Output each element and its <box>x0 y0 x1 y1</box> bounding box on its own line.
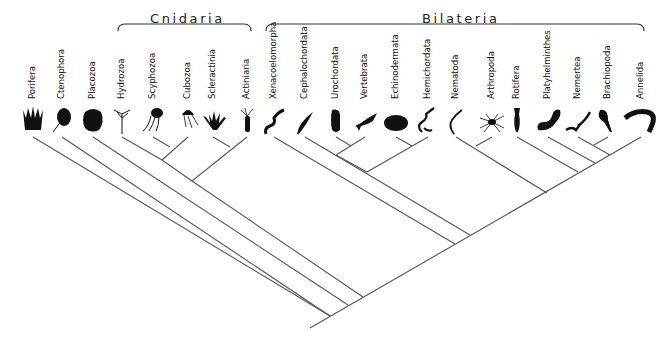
coral-icon <box>203 111 226 130</box>
fish-icon <box>355 113 377 131</box>
taxon-label-cubozoa: Cubozoa <box>181 62 192 99</box>
lamp-shell-icon <box>599 110 612 132</box>
tree-branch <box>62 137 330 316</box>
tree-branch <box>33 137 330 316</box>
taxon-label-arthropoda: Arthropoda <box>485 51 496 99</box>
comb-jelly-icon <box>53 108 71 132</box>
rotifer-icon <box>514 108 520 132</box>
tree-branch <box>367 137 428 172</box>
segmented-worm-icon <box>625 112 653 132</box>
tree-branch <box>192 137 247 181</box>
tree-branch <box>153 137 170 147</box>
taxon-label-nemertea: Nemertea <box>571 56 582 99</box>
taxon-label-hemichordata: Hemichordata <box>421 39 432 99</box>
taxon-label-vertebrata: Vertebrata <box>358 54 369 99</box>
lancelet-icon <box>297 112 313 134</box>
tree-branch <box>162 160 192 181</box>
tree-branch <box>213 137 230 147</box>
tree-branch <box>122 137 162 160</box>
sea-anemone-icon <box>241 108 253 132</box>
taxon-label-ctenophora: Ctenophora <box>55 49 66 99</box>
clade-title-cnidaria: Cnidaria <box>150 11 225 26</box>
taxon-label-porifera: Porifera <box>26 66 37 99</box>
taxon-label-echinodermata: Echinodermata <box>389 34 400 99</box>
sponge-icon <box>23 106 43 130</box>
taxon-label-cephalochordata: Cephalochordata <box>298 26 309 99</box>
phylogenetic-tree-diagram: Cnidaria Bilateria PoriferaCtenophoraPla… <box>0 0 672 344</box>
tree-branch <box>578 137 610 155</box>
box-jelly-icon <box>182 110 198 128</box>
taxon-label-scleractinia: Scleractinia <box>206 49 217 99</box>
taxon-label-annelida: Annelida <box>634 62 645 99</box>
placozoan-blob-icon <box>83 109 103 132</box>
tree-branch <box>594 137 608 145</box>
ribbon-worm-icon <box>566 112 590 130</box>
clade-title-bilateria: Bilateria <box>422 11 500 26</box>
tunicate-icon <box>331 110 340 132</box>
roundworm-icon <box>450 110 462 134</box>
taxon-label-platyhelminthes: Platyhelminthes <box>541 30 552 99</box>
taxon-label-urochordata: Urochordata <box>329 46 340 99</box>
acoel-worm-icon <box>266 110 285 134</box>
taxon-label-hydrozoa: Hydrozoa <box>115 59 126 99</box>
taxon-label-scyphozoa: Scyphozoa <box>146 53 157 99</box>
tree-branch <box>305 137 470 235</box>
acorn-worm-icon <box>419 108 434 132</box>
taxon-label-actiniaria: Actiniaria <box>240 59 251 99</box>
tree-branch <box>396 137 412 146</box>
hydroid-icon <box>114 110 130 134</box>
tree-branch <box>310 137 641 328</box>
taxon-label-placozoa: Placozoa <box>86 61 97 99</box>
sea-urchin-icon <box>384 115 408 131</box>
tree-branch <box>336 137 351 146</box>
taxon-label-nematoda: Nematoda <box>449 55 460 99</box>
taxon-label-rotifera: Rotifera <box>510 66 521 99</box>
tree-branch <box>93 137 348 305</box>
jellyfish-icon <box>143 108 163 131</box>
tree-branch <box>162 137 188 160</box>
tree-branch <box>192 181 363 297</box>
tree-branch <box>456 137 547 193</box>
tree-branch <box>517 137 578 172</box>
taxon-label-xenacoelomorpha: Xenacoelomorpha <box>267 22 278 99</box>
flatworm-icon <box>538 110 561 131</box>
taxon-label-brachiopoda: Brachiopoda <box>601 45 612 99</box>
tree-branch <box>476 137 492 146</box>
spider-icon <box>480 114 504 132</box>
tree-branch <box>274 137 455 244</box>
tree-branch <box>336 155 367 172</box>
